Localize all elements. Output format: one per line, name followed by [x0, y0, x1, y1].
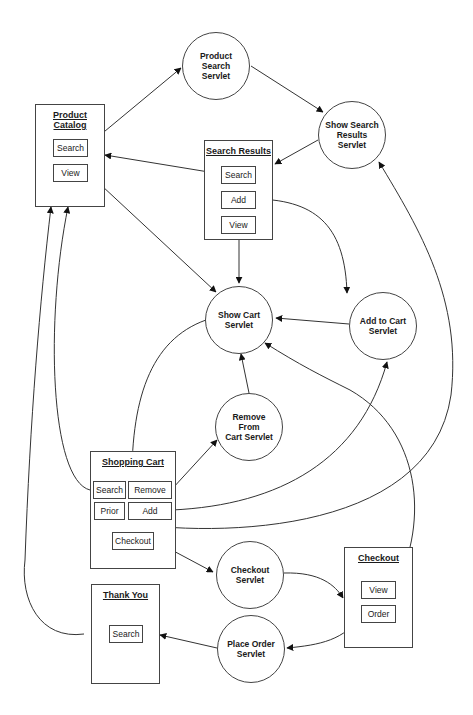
search-button[interactable]: Search [109, 625, 143, 643]
search-button[interactable]: Search [221, 166, 256, 184]
add-button[interactable]: Add [128, 502, 172, 520]
page-checkout: Checkout View Order [344, 547, 413, 648]
page-thank-you: Thank You Search [91, 584, 160, 684]
page-title: Checkout [345, 553, 412, 563]
view-button[interactable]: View [221, 216, 256, 234]
order-button[interactable]: Order [361, 605, 396, 623]
servlet-add-to-cart: Add to CartServlet [349, 292, 417, 360]
page-title: Thank You [92, 590, 159, 600]
page-title: Product Catalog [36, 110, 104, 130]
add-button[interactable]: Add [221, 191, 256, 209]
prior-button[interactable]: Prior [94, 502, 125, 520]
servlet-checkout: CheckoutServlet [216, 541, 284, 609]
view-button[interactable]: View [361, 581, 396, 599]
servlet-remove-from-cart: Remove FromCart Servlet [215, 393, 283, 461]
page-title: Search Results [205, 146, 272, 156]
servlet-place-order: Place OrderServlet [217, 615, 285, 683]
page-title: Shopping Cart [91, 457, 175, 467]
page-product-catalog: Product Catalog Search View [35, 104, 105, 207]
page-search-results: Search Results Search Add View [204, 140, 273, 240]
search-button[interactable]: Search [93, 481, 126, 499]
page-shopping-cart: Shopping Cart Search Remove Prior Add Ch… [90, 451, 176, 569]
remove-button[interactable]: Remove [128, 481, 172, 499]
search-button[interactable]: Search [53, 139, 88, 157]
servlet-show-cart: Show CartServlet [205, 286, 273, 354]
servlet-product-search: Product SearchServlet [182, 32, 250, 100]
servlet-show-search-results: Show SearchResults Servlet [318, 101, 386, 169]
checkout-button[interactable]: Checkout [112, 532, 154, 550]
view-button[interactable]: View [53, 164, 88, 182]
